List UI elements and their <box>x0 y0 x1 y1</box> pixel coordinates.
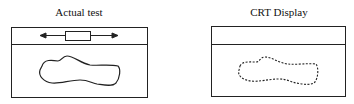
arrow-left-icon <box>40 33 46 38</box>
arrow-right-icon <box>112 33 118 38</box>
diagram-canvas <box>0 0 354 104</box>
actual-outline-shape <box>40 56 120 85</box>
crt-dashed-outline-shape <box>239 57 318 84</box>
crt-display-panel <box>212 27 346 97</box>
actual-test-panel <box>12 28 148 98</box>
slider-block <box>66 32 91 41</box>
